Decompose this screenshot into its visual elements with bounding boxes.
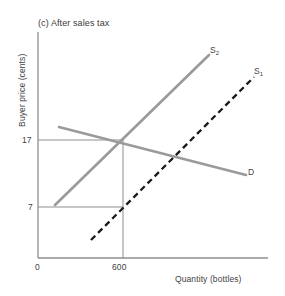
chart-plot-area: [0, 0, 285, 296]
curve-label-s2-text: S: [210, 45, 216, 55]
x-tick-label-600: 600: [112, 263, 126, 272]
demand-curve: [59, 127, 246, 175]
supply-curve-original: [91, 77, 254, 240]
y-tick-label-17: 17: [22, 136, 32, 145]
chart-figure: (c) After sales tax Buyer price (cents) …: [0, 0, 285, 296]
chart-axes: [38, 32, 268, 258]
curve-label-supply-after-tax: S2: [210, 46, 219, 55]
panel-title: (c) After sales tax: [38, 19, 109, 28]
x-tick-label-0: 0: [35, 263, 40, 272]
curve-label-s1-subscript: 1: [260, 71, 263, 77]
curve-label-s2-subscript: 2: [216, 50, 219, 56]
y-axis-title: Buyer price (cents): [18, 42, 27, 138]
reference-lines: [38, 140, 123, 258]
supply-curve-after-tax: [55, 55, 209, 205]
curve-label-demand: D: [248, 168, 254, 177]
y-tick-label-7: 7: [28, 203, 33, 212]
curve-label-s1-text: S: [254, 66, 260, 76]
x-axis-title: Quantity (bottles): [175, 275, 242, 284]
curve-label-supply-original: S1: [254, 67, 263, 76]
